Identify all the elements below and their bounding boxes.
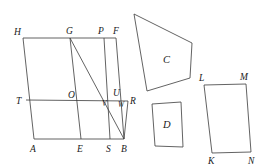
vertex-label-g: G [66,26,73,36]
geometry-canvas: H G P F T O U V W R A E S B C D L M K N [0,0,269,167]
vertex-label-t: T [16,96,22,106]
shape-label-c: C [163,54,171,65]
vertex-label-u: U [113,88,121,98]
vertex-label-w: W [118,100,125,109]
vertex-label-o: O [68,90,75,100]
shape-label-d: D [162,119,171,130]
vertex-label-m: M [239,72,249,82]
vertex-label-p: P [97,26,104,36]
vertex-label-e: E [76,144,83,154]
vertex-label-f: F [112,26,119,36]
vertex-label-k: K [207,156,215,166]
vertex-label-b: B [121,144,127,154]
geometry-figure: H G P F T O U V W R A E S B C D L M K N [0,0,269,167]
parallelogram-lmnk-outline [204,84,251,153]
vertex-label-h: H [13,27,22,37]
vertex-label-r: R [129,96,136,106]
vertex-label-l: L [198,73,204,83]
vertex-label-n: N [247,156,255,166]
segment-cevian-ps [104,38,110,139]
segment-cevian-ge [70,38,81,139]
trapezoid-c-outline [134,14,192,91]
vertex-label-s: S [106,144,111,154]
segment-rb [124,101,128,139]
vertex-label-a: A [29,144,36,154]
